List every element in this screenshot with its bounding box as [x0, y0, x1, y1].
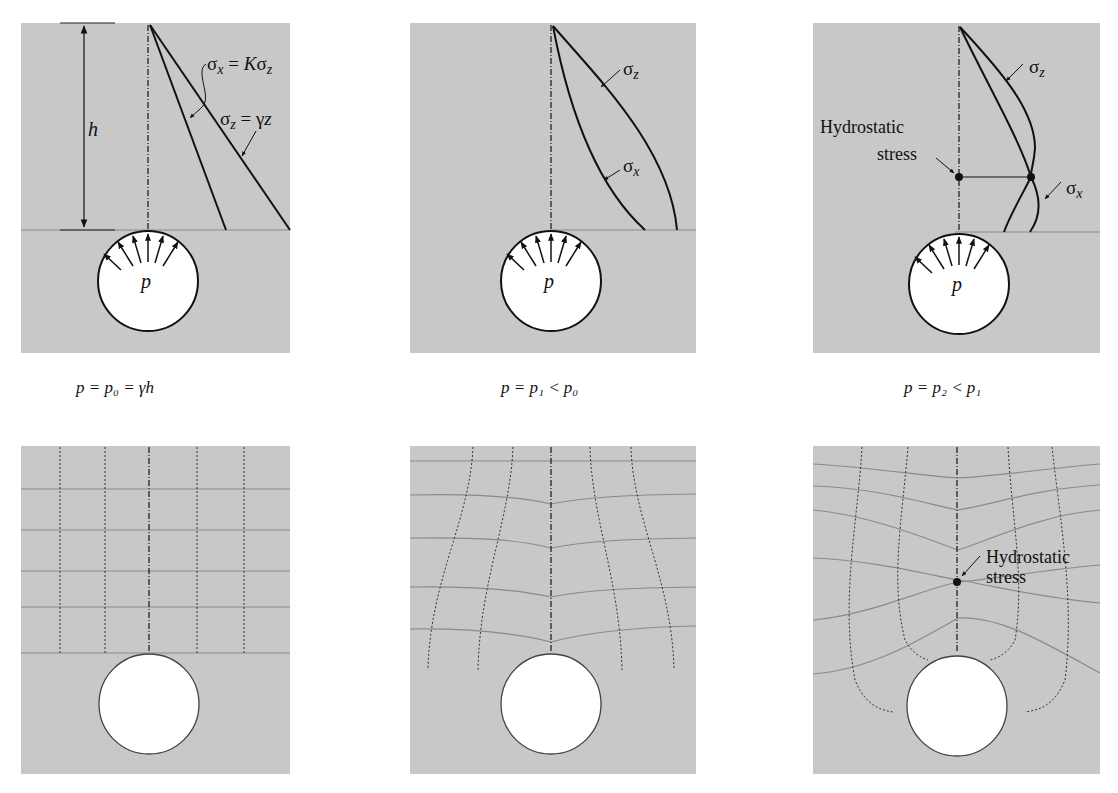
caption-p2: p = p₂ < p₁	[904, 378, 981, 398]
caption-p0: p = p₀ = γh	[76, 378, 154, 398]
panel-grid-p0	[21, 446, 290, 774]
sigma-z-equation-label: σz = γz	[220, 108, 272, 132]
hydrostatic-point-intersection	[1027, 173, 1035, 181]
panel-grid-p2: Hydrostatic stress	[813, 446, 1100, 774]
pressure-label: p	[139, 270, 151, 293]
panel-p0-stress-profile: h σx = Kσz σz = γz p	[21, 23, 290, 353]
panel-p2-stress-profile: Hydrostatic stress σz σx p	[813, 23, 1100, 353]
cavity-circle	[501, 654, 601, 754]
depth-label: h	[88, 118, 98, 140]
hydrostatic-point-axis	[955, 173, 963, 181]
panel-grid-p1	[410, 446, 696, 774]
hydrostatic-point	[953, 578, 961, 586]
cavity-circle	[907, 656, 1007, 756]
hydrostatic-label-line1: Hydrostatic	[986, 547, 1070, 567]
hydrostatic-label-line2: stress	[877, 144, 917, 164]
pressure-label: p	[950, 273, 962, 296]
panel-p1-stress-profile: σz σx p	[410, 23, 696, 353]
pressure-label: p	[542, 270, 554, 293]
cavity-circle	[99, 654, 199, 754]
sigma-x-equation-label: σx = Kσz	[207, 53, 273, 77]
caption-p1: p = p₁ < p₀	[501, 378, 578, 398]
hydrostatic-label-line1: Hydrostatic	[820, 117, 904, 137]
hydrostatic-label-line2: stress	[986, 567, 1026, 587]
